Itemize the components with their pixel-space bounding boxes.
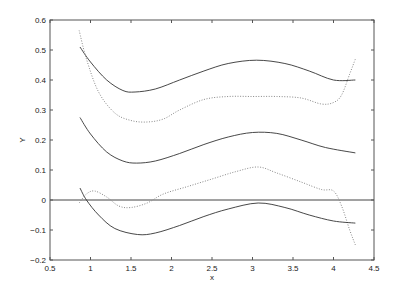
y-tick-label: 0.3 [35, 106, 47, 115]
x-tick-label: 4 [331, 264, 336, 273]
series-line-middle-solid [80, 118, 355, 164]
x-axis-label: x [210, 273, 214, 282]
y-axis-label: Y [18, 137, 27, 143]
y-tick-label: −0.1 [30, 226, 46, 235]
line-chart: 0.511.522.533.544.5 −0.2−0.100.10.20.30.… [0, 0, 400, 295]
x-tick-label: 3 [250, 264, 255, 273]
y-tick-label: 0 [42, 196, 47, 205]
y-tick-label: −0.2 [30, 256, 46, 265]
y-tick-label: 0.5 [35, 46, 47, 55]
x-tick-label: 3.5 [287, 264, 299, 273]
series-line-lower-dotted [79, 167, 355, 245]
x-tick-label: 1 [88, 264, 93, 273]
y-tick-label: 0.1 [35, 166, 47, 175]
y-tick-label: 0.6 [35, 16, 47, 25]
y-tick-label: 0.2 [35, 136, 47, 145]
series-layer [50, 31, 374, 246]
series-line-lower-solid [80, 188, 355, 235]
x-tick-label: 2 [169, 264, 174, 273]
x-tick-label: 2.5 [206, 264, 218, 273]
x-tick-label: 0.5 [44, 264, 56, 273]
y-tick-label: 0.4 [35, 76, 47, 85]
y-axis-ticks: −0.2−0.100.10.20.30.40.50.6 [30, 16, 374, 265]
series-line-upper-dotted [79, 31, 355, 123]
x-axis-ticks: 0.511.522.533.544.5 [44, 20, 380, 273]
x-tick-label: 4.5 [368, 264, 380, 273]
series-line-upper-solid [80, 47, 355, 92]
x-tick-label: 1.5 [125, 264, 137, 273]
plot-frame [50, 20, 374, 260]
